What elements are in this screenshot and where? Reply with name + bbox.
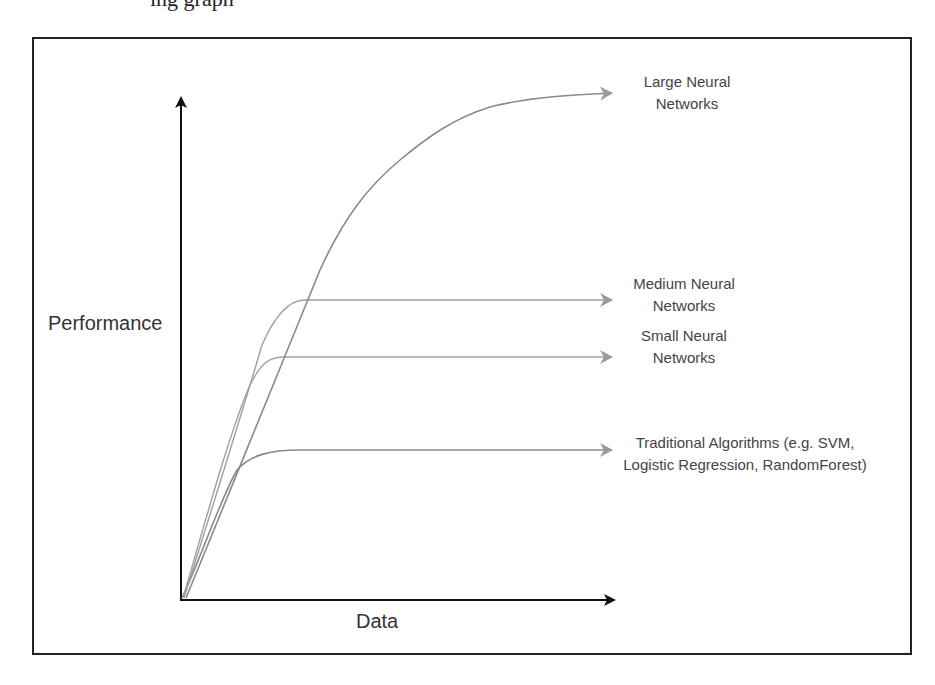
label-small-nn-line1: Small Neural bbox=[614, 325, 754, 347]
label-small-nn: Small Neural Networks bbox=[614, 325, 754, 369]
label-traditional-line2: Logistic Regression, RandomForest) bbox=[600, 454, 890, 476]
performance-vs-data-chart bbox=[0, 0, 935, 685]
curve-large-nn bbox=[186, 93, 612, 598]
curve-medium-nn bbox=[184, 300, 612, 598]
label-medium-nn-line2: Networks bbox=[614, 295, 754, 317]
label-medium-nn-line1: Medium Neural bbox=[614, 273, 754, 295]
label-small-nn-line2: Networks bbox=[614, 347, 754, 369]
label-large-nn: Large Neural Networks bbox=[622, 71, 752, 115]
label-large-nn-line1: Large Neural bbox=[622, 71, 752, 93]
label-large-nn-line2: Networks bbox=[622, 93, 752, 115]
label-traditional: Traditional Algorithms (e.g. SVM, Logist… bbox=[600, 432, 890, 476]
label-traditional-line1: Traditional Algorithms (e.g. SVM, bbox=[600, 432, 890, 454]
x-axis-label: Data bbox=[356, 610, 398, 633]
label-medium-nn: Medium Neural Networks bbox=[614, 273, 754, 317]
curve-traditional bbox=[182, 450, 612, 598]
y-axis-label: Performance bbox=[48, 312, 163, 335]
